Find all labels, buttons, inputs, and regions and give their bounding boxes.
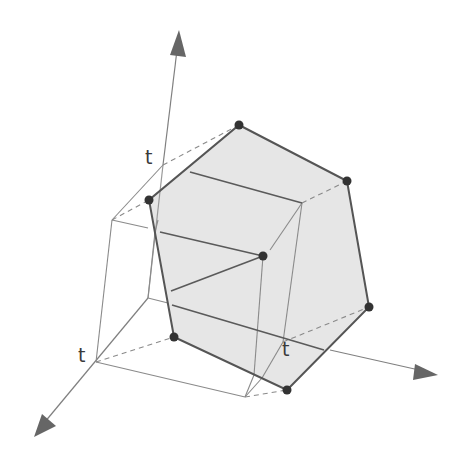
vertex-left xyxy=(145,196,154,205)
vertex-inner xyxy=(259,252,268,261)
x-arrow-icon xyxy=(34,414,56,437)
diagram-canvas: t t t xyxy=(0,0,467,464)
vertex-upper-right xyxy=(343,177,352,186)
z-axis xyxy=(163,42,178,165)
label-t-z: t xyxy=(145,148,152,167)
vertex-lower-left xyxy=(170,333,179,342)
y-axis xyxy=(330,350,428,372)
polytope-diagram xyxy=(0,0,467,464)
vertex-right xyxy=(365,303,374,312)
label-t-y: t xyxy=(282,340,289,359)
label-t-x: t xyxy=(78,346,85,365)
z-arrow-icon xyxy=(170,30,186,57)
y-arrow-icon xyxy=(413,364,438,380)
vertex-top xyxy=(235,121,244,130)
vertex-bottom xyxy=(283,386,292,395)
